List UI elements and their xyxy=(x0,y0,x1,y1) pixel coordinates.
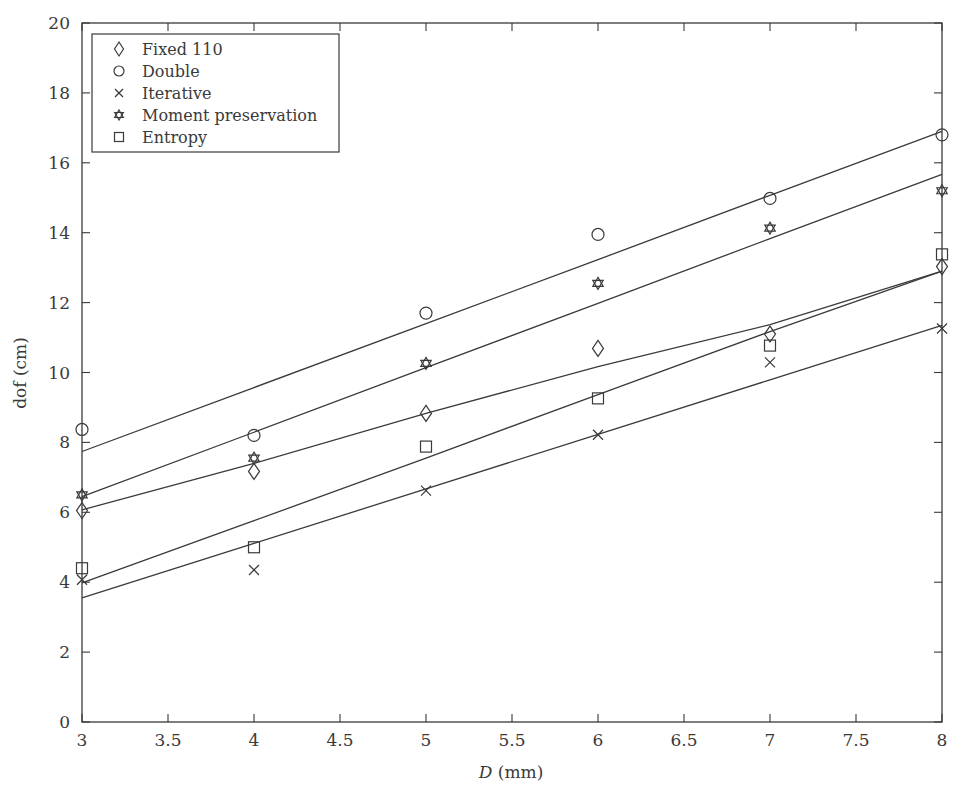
legend-label: Iterative xyxy=(142,84,211,103)
legend-label: Moment preservation xyxy=(142,106,317,125)
y-tick-label: 20 xyxy=(48,13,70,33)
circle-marker-icon xyxy=(592,228,604,240)
x-axis-label: D (mm) xyxy=(478,762,544,782)
circle-marker-icon xyxy=(420,307,432,319)
y-tick-label: 4 xyxy=(59,572,70,592)
y-tick-label: 18 xyxy=(48,83,70,103)
series-moment-preservation xyxy=(77,185,947,501)
fit-line-entropy xyxy=(82,271,942,583)
y-tick-label: 2 xyxy=(59,642,70,662)
x-tick-label: 5 xyxy=(421,730,432,750)
scatter-chart: 33.544.555.566.577.58 02468101214161820 … xyxy=(0,0,962,810)
x-tick-label: 4.5 xyxy=(326,730,353,750)
legend-label: Entropy xyxy=(142,128,207,147)
circle-marker-icon xyxy=(764,192,776,204)
data-points xyxy=(76,129,948,585)
legend-label: Double xyxy=(142,62,200,81)
x-tick-label: 4 xyxy=(249,730,260,750)
series-double xyxy=(76,129,948,442)
series-entropy xyxy=(77,249,948,574)
x-tick-label: 5.5 xyxy=(498,730,525,750)
fit-line-double xyxy=(82,131,942,451)
fit-line-iterative xyxy=(82,325,942,598)
legend-item-moment-preservation: Moment preservation xyxy=(115,106,318,125)
y-tick-label: 16 xyxy=(48,153,70,173)
diamond-marker-icon xyxy=(593,340,604,356)
x-marker-icon xyxy=(765,357,775,367)
x-tick-label: 7.5 xyxy=(842,730,869,750)
fit-line-fixed-110 xyxy=(82,271,942,510)
y-tick-label: 6 xyxy=(59,502,70,522)
star-marker-icon xyxy=(593,277,603,289)
x-tick-label: 6 xyxy=(593,730,604,750)
square-marker-icon xyxy=(421,441,432,452)
star-marker-icon xyxy=(765,222,775,234)
y-tick-label: 8 xyxy=(59,432,70,452)
fit-line-moment-preservation xyxy=(82,174,942,496)
y-tick-label: 0 xyxy=(59,712,70,732)
y-axis-label: dof (cm) xyxy=(10,337,30,409)
x-marker-icon xyxy=(249,565,259,575)
x-tick-label: 8 xyxy=(937,730,948,750)
y-tick-label: 10 xyxy=(48,363,70,383)
legend-label: Fixed 110 xyxy=(142,40,223,59)
fit-lines xyxy=(82,131,942,598)
y-tick-label: 14 xyxy=(48,223,70,243)
series-iterative xyxy=(77,323,947,584)
x-tick-label: 3.5 xyxy=(154,730,181,750)
series-fixed-110 xyxy=(77,259,948,519)
x-marker-icon xyxy=(593,430,603,440)
diamond-marker-icon xyxy=(249,463,260,479)
x-tick-label: 3 xyxy=(77,730,88,750)
legend: Fixed 110DoubleIterativeMoment preservat… xyxy=(92,34,339,152)
x-tick-label: 7 xyxy=(765,730,776,750)
y-tick-label: 12 xyxy=(48,293,70,313)
circle-marker-icon xyxy=(248,429,260,441)
x-tick-label: 6.5 xyxy=(670,730,697,750)
